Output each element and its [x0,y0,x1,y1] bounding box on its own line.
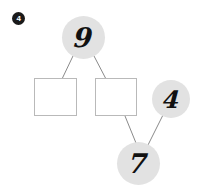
number-circle-value: 7 [128,148,149,179]
number-circle-value: 9 [73,22,94,53]
number-circle-top: 9 [62,16,105,59]
connector-line [62,56,73,79]
connector-line [148,115,163,145]
answer-box-left-box[interactable] [34,78,77,116]
connector-line [94,56,106,79]
number-circle-right-circle: 4 [152,80,190,118]
connector-line [125,116,136,143]
number-circle-value: 4 [162,85,181,114]
number-circle-bottom: 7 [117,142,160,185]
worksheet-canvas: 4 947 [0,0,203,188]
answer-box-right-box[interactable] [95,78,137,116]
